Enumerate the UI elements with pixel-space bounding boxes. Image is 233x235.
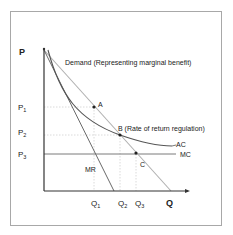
- p3-label: P3: [18, 150, 26, 160]
- mc-label: MC: [180, 151, 191, 158]
- demand-label: Demand (Representing marginal benefit): [65, 59, 191, 67]
- demand-curve: [44, 50, 171, 191]
- p1-label: P1: [18, 103, 26, 113]
- mr-label: MR: [85, 166, 96, 173]
- point-b: [118, 133, 121, 136]
- q2-label: Q2: [118, 199, 127, 209]
- monopoly-regulation-diagram: P Q P1 P2 P3 Q1 Q2 Q3 Demand (Representi…: [0, 0, 233, 235]
- point-c-label: C: [140, 161, 145, 168]
- x-axis-label: Q: [166, 198, 173, 208]
- ac-label: AC: [176, 141, 186, 148]
- point-c: [134, 151, 137, 154]
- y-axis-tip: [43, 48, 45, 50]
- y-axis-label: P: [19, 47, 25, 57]
- q1-label: Q1: [91, 199, 100, 209]
- point-a: [92, 105, 95, 108]
- p2-label: P2: [18, 128, 26, 138]
- x-axis-arrow-icon: [185, 189, 190, 193]
- q3-label: Q3: [135, 199, 144, 209]
- point-b-label: B (Rate of return regulation): [118, 125, 205, 133]
- point-a-label: A: [98, 101, 103, 108]
